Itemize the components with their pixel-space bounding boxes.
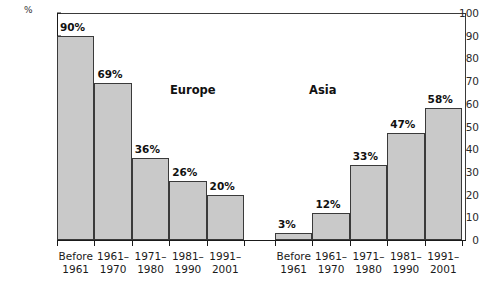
x-axis-tick-label-line: 1961– [94, 250, 131, 263]
x-axis-tick-label-line: 1991– [425, 250, 462, 263]
bar-value-label: 36% [135, 143, 160, 155]
x-axis-tick-label: Before1961 [275, 250, 312, 276]
bar-value-label: 33% [353, 150, 378, 162]
x-axis-tick-label: 1971–1980 [350, 250, 387, 276]
x-axis-tick-label-line: 1991– [207, 250, 244, 263]
x-axis-tick-label-line: 1990 [387, 263, 424, 276]
x-axis-tick-mark [132, 241, 133, 246]
x-axis-tick-label-line: 1961 [57, 263, 94, 276]
bar [207, 195, 244, 240]
x-axis-tick-label: 1961–1970 [312, 250, 349, 276]
x-axis-tick-mark [169, 241, 170, 246]
x-axis-tick-mark [94, 241, 95, 246]
bar-chart: % 0102030405060708090100 90%69%36%26%20%… [0, 0, 479, 296]
bar-value-label: 90% [60, 21, 85, 33]
x-axis-tick-label: 1971–1980 [132, 250, 169, 276]
group-title-asia: Asia [309, 83, 336, 97]
x-axis-tick-mark [57, 241, 58, 246]
x-axis-tick-label-line: 1971– [132, 250, 169, 263]
x-axis-line [57, 240, 466, 241]
bar [169, 181, 206, 240]
x-axis-tick-label-line: Before [275, 250, 312, 263]
x-axis-tick-label: 1981–1990 [387, 250, 424, 276]
y-axis-unit-label: % [24, 5, 33, 15]
x-axis-tick-label: 1991–2001 [207, 250, 244, 276]
bar-value-label: 26% [172, 166, 197, 178]
x-axis-tick-mark [350, 241, 351, 246]
x-axis-tick-mark [387, 241, 388, 246]
x-axis-tick-label: Before1961 [57, 250, 94, 276]
x-axis-tick-label-line: 1981– [387, 250, 424, 263]
x-axis-tick-label-line: 1970 [312, 263, 349, 276]
x-axis-tick-label: 1961–1970 [94, 250, 131, 276]
x-axis-tick-label-line: 1961 [275, 263, 312, 276]
x-axis-tick-mark [462, 241, 463, 246]
x-axis-tick-label-line: 1970 [94, 263, 131, 276]
x-axis-tick-label-line: 1961– [312, 250, 349, 263]
x-axis-tick-mark [425, 241, 426, 246]
bar-value-label: 47% [390, 118, 415, 130]
x-axis-tick-label: 1981–1990 [169, 250, 206, 276]
bar [387, 133, 424, 240]
x-axis-tick-label-line: 1990 [169, 263, 206, 276]
bar-value-label: 3% [278, 218, 296, 230]
bar [312, 213, 349, 240]
bar [275, 233, 312, 240]
x-axis-tick-label-line: 1980 [132, 263, 169, 276]
x-axis-tick-mark [207, 241, 208, 246]
bar [94, 83, 131, 240]
x-axis-tick-mark [244, 241, 245, 246]
x-axis-tick-label-line: 1971– [350, 250, 387, 263]
bar [57, 36, 94, 240]
bar [425, 108, 462, 240]
bar [350, 165, 387, 240]
x-axis-tick-label-line: Before [57, 250, 94, 263]
x-axis-tick-mark [275, 241, 276, 246]
bar-value-label: 69% [97, 68, 122, 80]
bar-value-label: 12% [315, 198, 340, 210]
x-axis-tick-label-line: 2001 [207, 263, 244, 276]
x-axis-tick-label-line: 1980 [350, 263, 387, 276]
x-axis-tick-label-line: 1981– [169, 250, 206, 263]
bar [132, 158, 169, 240]
x-axis-tick-mark [312, 241, 313, 246]
x-axis-tick-label-line: 2001 [425, 263, 462, 276]
bar-value-label: 58% [428, 93, 453, 105]
x-axis-tick-label: 1991–2001 [425, 250, 462, 276]
bar-value-label: 20% [210, 180, 235, 192]
group-title-europe: Europe [170, 83, 216, 97]
